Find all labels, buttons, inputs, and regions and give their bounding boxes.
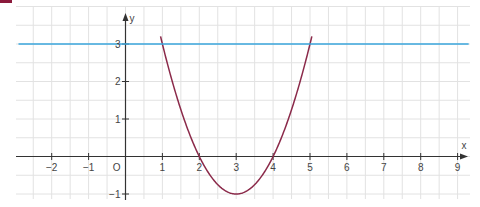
x-tick-label: 5	[307, 162, 313, 173]
x-tick-label: 3	[233, 162, 239, 173]
function-graph: −2−1123456789−1123Oxy	[0, 0, 480, 207]
x-tick-label: 7	[381, 162, 387, 173]
y-axis-label: y	[130, 13, 135, 24]
y-tick-label: 2	[115, 76, 121, 87]
y-tick-label: 1	[115, 114, 121, 125]
x-axis-label: x	[462, 140, 467, 151]
x-tick-label: 9	[455, 162, 461, 173]
y-tick-label: −1	[109, 189, 121, 200]
x-tick-label: 2	[197, 162, 203, 173]
x-axis-arrow-icon	[460, 154, 468, 160]
x-tick-label: 4	[270, 162, 276, 173]
origin-label: O	[113, 162, 121, 173]
tick-labels: −2−1123456789−1123Oxy	[46, 13, 467, 200]
y-tick-label: 3	[115, 39, 121, 50]
x-tick-label: 1	[160, 162, 166, 173]
x-tick-label: −2	[46, 162, 58, 173]
y-axis-arrow-icon	[123, 13, 129, 21]
x-tick-label: −1	[83, 162, 95, 173]
x-tick-label: 8	[418, 162, 424, 173]
x-tick-label: 6	[344, 162, 350, 173]
